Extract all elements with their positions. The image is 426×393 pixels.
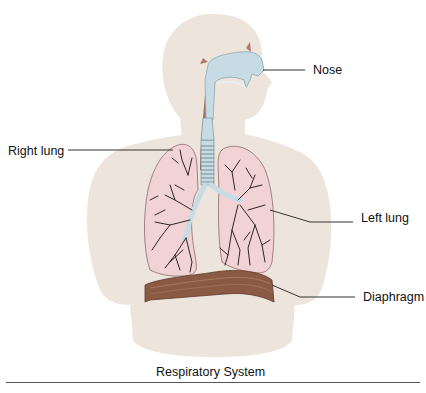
caption-divider: [6, 382, 420, 383]
label-left-lung: Left lung: [361, 212, 409, 225]
respiratory-system-diagram: Nose Right lung Left lung Diaphragm Resp…: [0, 0, 426, 393]
label-right-lung: Right lung: [8, 145, 64, 158]
trachea: [201, 118, 214, 185]
anatomy-illustration: [0, 0, 426, 393]
label-nose: Nose: [313, 64, 342, 77]
figure-caption: Respiratory System: [156, 366, 265, 379]
label-diaphragm: Diaphragm: [363, 291, 424, 304]
